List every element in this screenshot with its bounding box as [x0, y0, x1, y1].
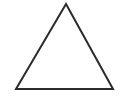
figure-canvas: [0, 0, 121, 104]
triangle-svg: [0, 0, 121, 104]
